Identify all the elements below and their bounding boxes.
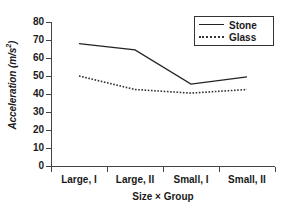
y-axis-title-close: ) [6,41,17,44]
x-axis-tick-label: Large, I [51,174,107,185]
y-axis-tick-label: 10 [22,143,44,153]
x-axis-tick-label: Small, II [219,174,275,185]
y-axis-tick-label: 70 [22,35,44,45]
x-axis-tick-mark [107,167,108,172]
series-line-glass [79,76,247,93]
legend-dotted-line-icon [198,32,225,42]
x-axis-tick-mark [219,167,220,172]
legend-solid-line-icon [198,20,225,30]
y-axis-tick-label: 0 [22,161,44,171]
y-axis-tick-label: 80 [22,17,44,27]
chart-figure: Acceleration (m/s2) 01020304050607080 La… [0,0,283,213]
y-axis-title-text: Acceleration (m/s [6,48,17,130]
y-axis-tick-label: 30 [22,107,44,117]
legend-item-glass: Glass [198,31,270,43]
series-line-stone [79,44,247,85]
x-axis-tick-label: Small, I [163,174,219,185]
y-axis-tick-label: 20 [22,125,44,135]
y-axis-tick-label: 50 [22,71,44,81]
x-axis-tick-mark [163,167,164,172]
chart-legend: Stone Glass [194,16,274,46]
y-axis-tick-label: 40 [22,89,44,99]
x-axis-tick-mark [275,167,276,172]
y-axis-tick-label: 60 [22,53,44,63]
legend-label-stone: Stone [225,20,257,31]
y-axis-title: Acceleration (m/s2) [0,0,22,170]
y-axis-tick-labels: 01020304050607080 [20,0,44,213]
x-axis-title: Size × Group [51,191,275,202]
x-axis-tick-label: Large, II [107,174,163,185]
legend-item-stone: Stone [198,19,270,31]
x-axis-tick-mark [51,167,52,172]
legend-label-glass: Glass [225,32,256,43]
